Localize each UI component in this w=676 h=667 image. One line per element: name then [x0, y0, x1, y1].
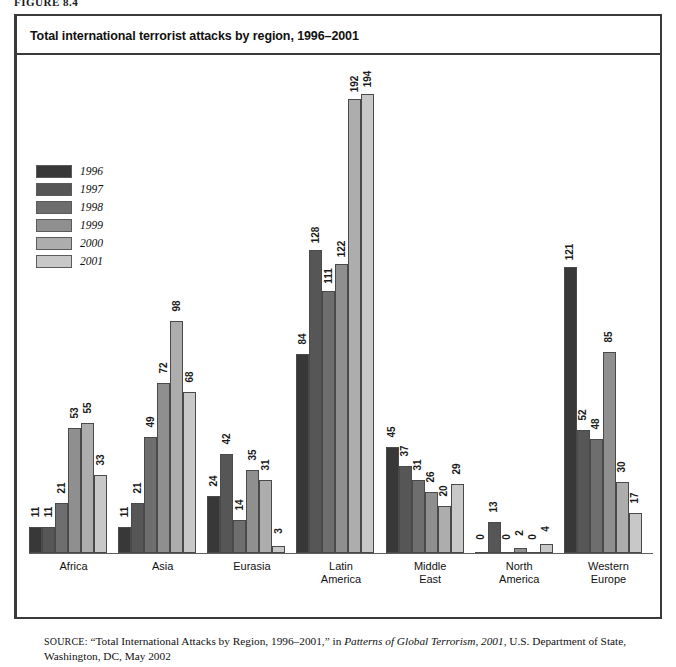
- category-label: NorthAmerica: [475, 555, 564, 599]
- bar-item[interactable]: 13: [488, 56, 501, 553]
- bar-item[interactable]: 122: [335, 56, 348, 553]
- bar[interactable]: [233, 520, 246, 553]
- bar-item[interactable]: 21: [131, 56, 144, 553]
- bar-item[interactable]: 121: [564, 56, 577, 553]
- bar[interactable]: [527, 552, 540, 553]
- bar[interactable]: [183, 392, 196, 553]
- bar-item[interactable]: 20: [438, 56, 451, 553]
- bar[interactable]: [629, 513, 642, 553]
- bar[interactable]: [386, 447, 399, 553]
- bar-item[interactable]: 72: [157, 56, 170, 553]
- bar[interactable]: [488, 522, 501, 553]
- bar-group: 84128111122192194: [296, 56, 385, 553]
- bar[interactable]: [564, 267, 577, 553]
- bar-item[interactable]: 17: [629, 56, 642, 553]
- bar-item[interactable]: 48: [590, 56, 603, 553]
- bar-item[interactable]: 111: [322, 56, 335, 553]
- bar-value-label: 55: [83, 402, 93, 413]
- bar-item[interactable]: 11: [42, 56, 55, 553]
- bar[interactable]: [207, 496, 220, 553]
- bar[interactable]: [220, 454, 233, 553]
- bar-item[interactable]: 35: [246, 56, 259, 553]
- bar-value-label: 4: [541, 526, 551, 532]
- bar-item[interactable]: 55: [81, 56, 94, 553]
- category-label-line: Latin: [296, 560, 385, 573]
- bar[interactable]: [309, 250, 322, 553]
- bar-item[interactable]: 30: [616, 56, 629, 553]
- bar-item[interactable]: 31: [259, 56, 272, 553]
- bar[interactable]: [55, 503, 68, 553]
- bar[interactable]: [501, 552, 514, 553]
- bar-item[interactable]: 0: [527, 56, 540, 553]
- bar[interactable]: [540, 544, 553, 553]
- category-label: Eurasia: [207, 555, 296, 599]
- bar[interactable]: [399, 466, 412, 554]
- bar[interactable]: [118, 527, 131, 553]
- bar[interactable]: [144, 437, 157, 553]
- bar[interactable]: [451, 484, 464, 553]
- bar[interactable]: [81, 423, 94, 553]
- bar-item[interactable]: 84: [296, 56, 309, 553]
- bar-item[interactable]: 4: [540, 56, 553, 553]
- bar-item[interactable]: 0: [501, 56, 514, 553]
- bar-value-label: 121: [565, 244, 575, 261]
- bar[interactable]: [131, 503, 144, 553]
- bar[interactable]: [272, 546, 285, 553]
- bar[interactable]: [514, 548, 527, 553]
- bar[interactable]: [412, 480, 425, 553]
- bar-item[interactable]: 52: [577, 56, 590, 553]
- bar-item[interactable]: 53: [68, 56, 81, 553]
- bar[interactable]: [170, 321, 183, 553]
- bar-item[interactable]: 37: [399, 56, 412, 553]
- bar-item[interactable]: 192: [348, 56, 361, 553]
- bars: 84128111122192194: [296, 56, 374, 553]
- bar-item[interactable]: 128: [309, 56, 322, 553]
- bar-item[interactable]: 21: [55, 56, 68, 553]
- bar-item[interactable]: 11: [29, 56, 42, 553]
- bar-item[interactable]: 49: [144, 56, 157, 553]
- bar-item[interactable]: 24: [207, 56, 220, 553]
- bar-item[interactable]: 26: [425, 56, 438, 553]
- bar-value-label: 30: [617, 462, 627, 473]
- bar-group: 0130204: [475, 56, 564, 553]
- bar[interactable]: [246, 470, 259, 553]
- bar-item[interactable]: 11: [118, 56, 131, 553]
- bar[interactable]: [577, 430, 590, 553]
- bar[interactable]: [322, 291, 335, 554]
- bar[interactable]: [603, 352, 616, 553]
- bar[interactable]: [590, 439, 603, 553]
- bar[interactable]: [335, 264, 348, 553]
- bar-value-label: 48: [591, 419, 601, 430]
- bar[interactable]: [157, 383, 170, 553]
- bar[interactable]: [361, 94, 374, 553]
- bar[interactable]: [425, 492, 438, 553]
- bar-value-label: 85: [604, 331, 614, 342]
- bar[interactable]: [42, 527, 55, 553]
- bar[interactable]: [68, 428, 81, 553]
- category-label-line: Western: [564, 560, 653, 573]
- title-divider: [17, 53, 660, 55]
- bar-item[interactable]: 29: [451, 56, 464, 553]
- bar-item[interactable]: 85: [603, 56, 616, 553]
- category-labels: AfricaAsiaEurasiaLatinAmericaMiddleEastN…: [29, 555, 653, 599]
- bar-item[interactable]: 42: [220, 56, 233, 553]
- bar-groups: 1111215355331121497298682442143531384128…: [29, 56, 653, 553]
- bar[interactable]: [29, 527, 42, 553]
- bar[interactable]: [475, 552, 488, 553]
- bar[interactable]: [348, 99, 361, 553]
- bar-item[interactable]: 14: [233, 56, 246, 553]
- bar[interactable]: [296, 354, 309, 553]
- bar-item[interactable]: 33: [94, 56, 107, 553]
- bar-item[interactable]: 0: [475, 56, 488, 553]
- bar[interactable]: [616, 482, 629, 553]
- bar-item[interactable]: 2: [514, 56, 527, 553]
- bar-item[interactable]: 31: [412, 56, 425, 553]
- bar-item[interactable]: 45: [386, 56, 399, 553]
- bar[interactable]: [259, 480, 272, 553]
- bar-item[interactable]: 98: [170, 56, 183, 553]
- bar-item[interactable]: 68: [183, 56, 196, 553]
- bar-item[interactable]: 194: [361, 56, 374, 553]
- bar-item[interactable]: 3: [272, 56, 285, 553]
- bar[interactable]: [438, 506, 451, 553]
- bar[interactable]: [94, 475, 107, 553]
